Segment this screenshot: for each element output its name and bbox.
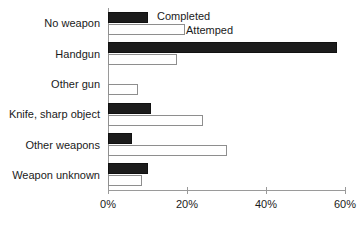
bar-attempted: [108, 84, 138, 95]
bar-completed: [108, 103, 151, 114]
x-axis-tick-label: 60%: [334, 198, 356, 211]
bar-chart: No weaponHandgunOther gunKnife, sharp ob…: [0, 0, 362, 228]
x-axis-line: [108, 190, 346, 191]
bar-completed: [108, 42, 337, 53]
category-label: Other weapons: [0, 139, 100, 151]
category-label: Handgun: [0, 48, 100, 60]
bar-completed: [108, 133, 132, 144]
x-axis-tick: [108, 187, 109, 194]
bar-attempted: [108, 54, 177, 65]
x-axis-tick: [345, 187, 346, 194]
legend-label-completed: Completed: [157, 10, 210, 22]
x-axis-tick: [266, 187, 267, 194]
bar-attempted: [108, 24, 185, 35]
category-label: Weapon unknown: [0, 169, 100, 181]
x-axis-tick-label: 20%: [176, 198, 198, 211]
x-axis-tick: [187, 187, 188, 194]
category-label: No weapon: [0, 17, 100, 29]
x-axis-tick-label: 0%: [100, 198, 116, 211]
bar-completed: [108, 163, 148, 174]
category-label: Other gun: [0, 78, 100, 90]
category-label: Knife, sharp object: [0, 108, 100, 120]
bar-attempted: [108, 175, 142, 186]
chart-title: [0, 0, 362, 1]
bar-completed: [108, 12, 148, 23]
x-axis-tick-label: 40%: [255, 198, 277, 211]
bar-attempted: [108, 145, 227, 156]
bar-attempted: [108, 115, 203, 126]
category-axis-labels: No weaponHandgunOther gunKnife, sharp ob…: [0, 8, 104, 188]
legend-label-attempted: Attemped: [186, 24, 233, 36]
